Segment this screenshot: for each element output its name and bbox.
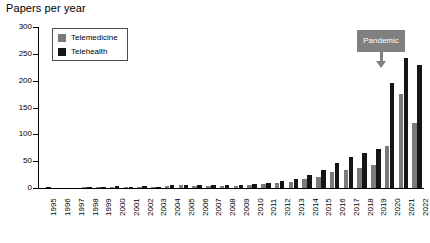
bar-telehealth-2004	[170, 185, 174, 188]
x-axis-tick-label: 2006	[201, 198, 210, 216]
bar-telehealth-2014	[307, 175, 311, 188]
x-axis-tick-labels: 1995199619971998199920002001200220032004…	[39, 190, 424, 242]
bar-telemedicine-2016	[330, 172, 334, 188]
x-axis-tick-label: 2010	[256, 198, 265, 216]
x-axis-tick-label: 2003	[159, 198, 168, 216]
bar-telemedicine-2018	[357, 168, 361, 188]
bar-telehealth-2017	[349, 157, 353, 188]
legend-label-telemedicine: Telemedicine	[71, 34, 118, 42]
bar-telehealth-2011	[266, 183, 270, 188]
bar-telemedicine-2009	[234, 186, 238, 188]
pandemic-annotation-label: Pandemic	[363, 37, 399, 45]
x-axis-tick-label: 1995	[49, 198, 58, 216]
bar-telemedicine-1999	[96, 187, 100, 188]
x-axis-tick-label: 2013	[297, 198, 306, 216]
x-axis-tick-label: 2000	[118, 198, 127, 216]
bar-telemedicine-2001	[124, 187, 128, 188]
bar-telemedicine-2022	[412, 123, 416, 188]
bar-telemedicine-2021	[399, 94, 403, 188]
bar-telemedicine-2012	[275, 183, 279, 188]
y-axis-tick-label: 100	[2, 130, 32, 138]
y-axis-tick	[33, 188, 38, 189]
x-axis-tick-label: 2017	[352, 198, 361, 216]
bar-telehealth-2003	[156, 187, 160, 188]
bar-group	[218, 27, 232, 188]
bar-telehealth-1998	[87, 187, 91, 188]
x-axis-tick-label: 1999	[104, 198, 113, 216]
bar-telehealth-2005	[184, 185, 188, 188]
y-axis-tick-label: 250	[2, 50, 32, 58]
bar-telemedicine-2003	[151, 187, 155, 188]
x-axis-tick-label: 2007	[214, 198, 223, 216]
bar-group	[300, 27, 314, 188]
x-axis-tick-label: 2001	[132, 198, 141, 216]
y-axis-tick-label: 0	[2, 184, 32, 192]
bar-telemedicine-2010	[247, 185, 251, 188]
bar-telehealth-2009	[239, 185, 243, 188]
bar-telehealth-2019	[376, 149, 380, 188]
y-axis-tick-label: 150	[2, 104, 32, 112]
y-axis-tick	[33, 134, 38, 135]
x-axis-tick-label: 1996	[63, 198, 72, 216]
x-axis-tick-label: 2012	[283, 198, 292, 216]
bar-telehealth-2007	[211, 185, 215, 188]
bar-telehealth-2001	[129, 187, 133, 188]
x-axis-tick-label: 2002	[146, 198, 155, 216]
bar-telehealth-2010	[252, 184, 256, 188]
y-axis-tick-label: 300	[2, 23, 32, 31]
x-axis-tick-label: 2004	[173, 198, 182, 216]
x-axis-tick-label: 2015	[324, 198, 333, 216]
y-axis-tick	[33, 54, 38, 55]
x-axis-tick-label: 2022	[421, 198, 430, 216]
legend-label-telehealth: Telehealth	[71, 48, 107, 56]
bar-group	[314, 27, 328, 188]
legend-item-telehealth: Telehealth	[58, 47, 107, 57]
bar-telemedicine-2014	[302, 179, 306, 188]
x-axis-line	[38, 188, 424, 189]
bar-telemedicine-2008	[220, 186, 224, 188]
bar-group	[273, 27, 287, 188]
x-axis-tick-label: 2014	[311, 198, 320, 216]
x-axis-tick-label: 2009	[242, 198, 251, 216]
bar-group	[135, 27, 149, 188]
bar-telehealth-2012	[280, 181, 284, 188]
bar-telemedicine-2017	[344, 170, 348, 188]
bar-telemedicine-2011	[261, 184, 265, 188]
y-axis-tick-label: 200	[2, 77, 32, 85]
y-axis-tick-label: 50	[2, 157, 32, 165]
bar-group	[259, 27, 273, 188]
x-axis-tick-label: 2011	[269, 199, 278, 216]
bar-telemedicine-2004	[165, 186, 169, 188]
bar-telemedicine-2020	[385, 146, 389, 188]
bar-group	[204, 27, 218, 188]
bar-telemedicine-2000	[110, 187, 114, 188]
bar-group	[410, 27, 424, 188]
bar-group	[149, 27, 163, 188]
bar-telehealth-2000	[115, 186, 119, 188]
bar-telehealth-2020	[390, 83, 394, 188]
bar-telemedicine-2007	[206, 186, 210, 188]
x-axis-tick-label: 2018	[366, 198, 375, 216]
x-axis-tick-label: 2016	[338, 198, 347, 216]
bar-group	[190, 27, 204, 188]
x-axis-tick-label: 2008	[228, 198, 237, 216]
bar-group	[232, 27, 246, 188]
x-axis-tick-label: 1998	[91, 198, 100, 216]
bar-telemedicine-2013	[289, 182, 293, 188]
x-axis-tick-label: 2005	[187, 198, 196, 216]
x-axis-tick-label: 2019	[379, 198, 388, 216]
y-axis-tick	[33, 27, 38, 28]
pandemic-arrow-head	[376, 61, 386, 68]
bar-telehealth-1999	[101, 187, 105, 188]
bar-group	[39, 27, 53, 188]
pandemic-annotation-box: Pandemic	[357, 30, 405, 52]
y-axis-tick-labels: 050100150200250300	[0, 0, 32, 243]
x-axis-tick-label: 2020	[393, 198, 402, 216]
bar-telehealth-2022	[417, 65, 421, 188]
x-axis-tick-label: 1997	[77, 198, 86, 216]
chart-legend: Telemedicine Telehealth	[52, 28, 128, 61]
bar-telehealth-2008	[225, 185, 229, 188]
bar-group	[177, 27, 191, 188]
legend-swatch-telemedicine	[58, 34, 66, 42]
